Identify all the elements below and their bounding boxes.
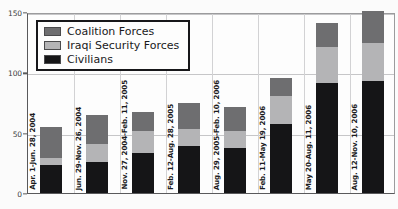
y-tick-label-100: 100 (8, 69, 22, 78)
stacked-bar-chart: 050100150 Apr. 1-Jun. 28, 2004Jun. 29-No… (0, 0, 398, 209)
bar-5 (224, 107, 246, 193)
bar-segment-civilians-5 (224, 148, 246, 193)
x-axis-label-1: Apr. 1-Jun. 28, 2004 (29, 113, 36, 190)
bar-segment-coalition-forces-3 (132, 112, 154, 131)
bar-6 (270, 78, 292, 193)
x-axis-label-7: May 20-Aug. 11, 2006 (305, 105, 312, 190)
bar-segment-civilians-3 (132, 153, 154, 193)
bar-segment-civilians-1 (40, 165, 62, 193)
legend-label-civilians: Civilians (67, 54, 113, 65)
gridline-100 (28, 74, 394, 75)
legend: Coalition Forces Iraqi Security Forces C… (36, 20, 190, 71)
bar-segment-iraqi-security-forces-6 (270, 96, 292, 124)
bar-segment-coalition-forces-1 (40, 127, 62, 158)
bar-1 (40, 127, 62, 193)
x-axis-label-6: Feb. 11-May 19, 2006 (259, 106, 266, 190)
bar-segment-iraqi-security-forces-4 (178, 129, 200, 146)
y-tick-label-0: 0 (17, 190, 22, 199)
legend-swatch-coalition-forces (44, 27, 61, 36)
bar-4 (178, 103, 200, 193)
bar-segment-coalition-forces-4 (178, 103, 200, 130)
bar-segment-iraqi-security-forces-7 (316, 47, 338, 83)
bar-8 (362, 11, 384, 193)
bar-segment-coalition-forces-6 (270, 78, 292, 96)
bar-segment-civilians-8 (362, 81, 384, 193)
gridline-150 (28, 14, 394, 15)
legend-item-civilians: Civilians (44, 54, 179, 65)
x-axis-label-4: Feb. 12-Aug. 28, 2005 (167, 104, 174, 190)
bar-3 (132, 112, 154, 193)
bar-7 (316, 23, 338, 193)
y-tick-label-150: 150 (8, 9, 22, 18)
bar-segment-iraqi-security-forces-1 (40, 158, 62, 165)
bar-segment-coalition-forces-5 (224, 107, 246, 131)
bar-segment-coalition-forces-2 (86, 115, 108, 144)
bar-segment-iraqi-security-forces-8 (362, 43, 384, 80)
x-axis-label-8: Aug. 12-Nov. 10, 2006 (351, 104, 358, 190)
x-axis-label-3: Nov. 27, 2004-Feb. 11, 2005 (121, 80, 128, 190)
bar-segment-civilians-6 (270, 124, 292, 193)
x-axis-label-2: Jun. 29-Nov. 26, 2004 (75, 107, 82, 191)
bar-segment-iraqi-security-forces-3 (132, 131, 154, 153)
bar-segment-coalition-forces-7 (316, 23, 338, 47)
y-tick-label-50: 50 (13, 129, 22, 138)
legend-swatch-iraqi-security-forces (44, 41, 61, 50)
bar-segment-coalition-forces-8 (362, 11, 384, 44)
legend-item-iraqi-security-forces: Iraqi Security Forces (44, 40, 179, 51)
legend-label-iraqi-security-forces: Iraqi Security Forces (67, 40, 179, 51)
bar-segment-iraqi-security-forces-5 (224, 131, 246, 148)
legend-swatch-civilians (44, 55, 61, 64)
bar-2 (86, 115, 108, 193)
bar-segment-civilians-2 (86, 162, 108, 193)
bar-segment-civilians-7 (316, 83, 338, 193)
legend-item-coalition-forces: Coalition Forces (44, 26, 179, 37)
x-axis-label-5: Aug. 29, 2005-Feb. 10, 2006 (213, 80, 220, 190)
legend-label-coalition-forces: Coalition Forces (67, 26, 154, 37)
bar-segment-iraqi-security-forces-2 (86, 144, 108, 162)
bar-segment-civilians-4 (178, 146, 200, 193)
